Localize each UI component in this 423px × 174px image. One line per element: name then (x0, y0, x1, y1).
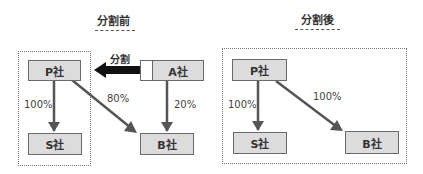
company-a-white-segment (141, 61, 153, 80)
before-pct-a-to-b: 20% (174, 99, 196, 110)
before-pct-p-to-s: 100% (24, 99, 53, 110)
after-pct-p-to-s: 100% (228, 99, 257, 110)
before-arrow-p-to-b (72, 80, 137, 133)
after-company-b: B社 (345, 131, 399, 154)
before-company-a: A社 (140, 60, 204, 81)
company-a-label: A社 (153, 61, 203, 80)
before-arrow-a-to-b (161, 80, 173, 132)
before-pct-p-to-b: 80% (107, 93, 129, 104)
after-title: 分割後 (292, 11, 342, 27)
after-company-s: S社 (233, 132, 287, 154)
after-company-p: P社 (232, 59, 287, 81)
before-company-s: S社 (28, 133, 82, 155)
before-company-p: P社 (28, 60, 81, 81)
before-company-b: B社 (140, 133, 194, 155)
after-title-underline (295, 29, 340, 30)
split-label: 分割 (110, 51, 130, 66)
after-pct-p-to-b: 100% (313, 91, 342, 102)
